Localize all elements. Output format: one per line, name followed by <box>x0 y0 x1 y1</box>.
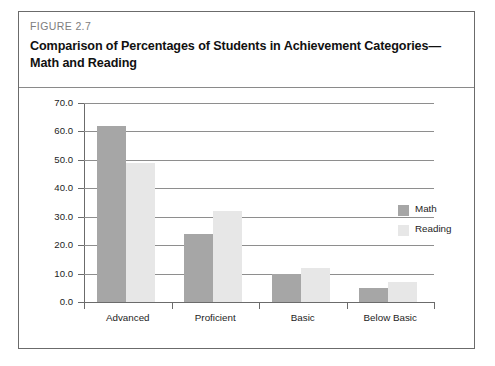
x-tick-label-basic: Basic <box>259 312 347 323</box>
figure-container: FIGURE 2.7 Comparison of Percentages of … <box>18 11 475 349</box>
bar-reading-advanced <box>126 163 155 302</box>
legend-swatch-reading <box>398 225 409 236</box>
bar-math-basic <box>272 274 301 302</box>
x-tick-mark <box>259 302 260 309</box>
y-tick-label: 50.0 <box>27 154 73 165</box>
legend-label-reading: Reading <box>415 223 452 234</box>
plot-inner <box>84 103 434 302</box>
x-tick-label-advanced: Advanced <box>84 312 172 323</box>
x-tick-mark <box>434 302 435 309</box>
y-tick-label: 30.0 <box>27 211 73 222</box>
legend-label-math: Math <box>415 203 437 214</box>
x-tick-mark <box>84 302 85 309</box>
y-tick-label: 0.0 <box>27 296 73 307</box>
y-tick-label: 20.0 <box>27 239 73 250</box>
x-tick-label-proficient: Proficient <box>172 312 260 323</box>
y-tick-label: 40.0 <box>27 182 73 193</box>
figure-number-label: FIGURE 2.7 <box>30 20 91 32</box>
gridline <box>84 103 434 104</box>
legend-swatch-math <box>398 205 409 216</box>
gridline <box>84 160 434 161</box>
x-tick-label-below-basic: Below Basic <box>347 312 435 323</box>
bar-reading-proficient <box>213 211 242 302</box>
bar-math-below-basic <box>359 288 388 302</box>
figure-header: FIGURE 2.7 Comparison of Percentages of … <box>19 12 474 88</box>
x-tick-mark <box>347 302 348 309</box>
x-tick-mark <box>172 302 173 309</box>
bar-reading-basic <box>301 268 330 302</box>
bar-reading-below-basic <box>388 282 417 302</box>
chart-plot-area: 70.060.050.040.030.020.010.00.0 Advanced… <box>19 88 474 349</box>
y-tick-label: 70.0 <box>27 97 73 108</box>
figure-title: Comparison of Percentages of Students in… <box>30 38 460 72</box>
y-tick-label: 10.0 <box>27 268 73 279</box>
gridline <box>84 131 434 132</box>
y-tick-label: 60.0 <box>27 125 73 136</box>
bar-math-proficient <box>184 234 213 302</box>
bar-math-advanced <box>97 126 126 302</box>
